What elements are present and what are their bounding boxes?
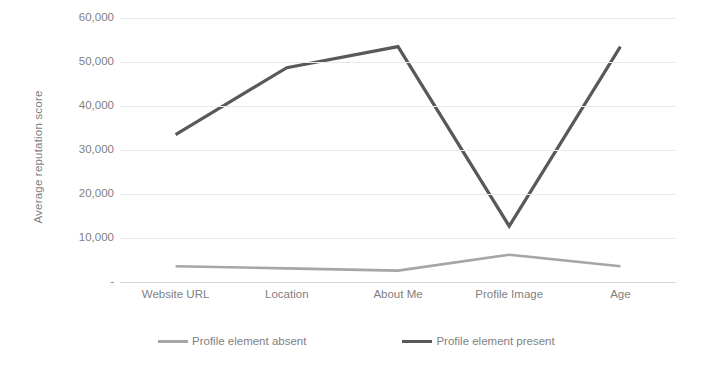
gridline: [120, 238, 676, 239]
y-tick-label: 10,000: [52, 232, 114, 244]
y-tick-label: 40,000: [52, 100, 114, 112]
x-axis-line: [120, 282, 676, 283]
y-axis-title: Average reputation score: [32, 0, 44, 52]
y-axis-tick-labels: -10,00020,00030,00040,00050,00060,000: [52, 0, 114, 368]
gridline: [120, 62, 676, 63]
x-tick-label: Profile Image: [454, 288, 565, 308]
y-tick-label: 30,000: [52, 144, 114, 156]
y-tick-label: 50,000: [52, 56, 114, 68]
x-tick-label: About Me: [342, 288, 453, 308]
legend-swatch-absent: [158, 340, 188, 343]
x-tick-label: Age: [565, 288, 676, 308]
x-tick-label: Location: [231, 288, 342, 308]
y-tick-label: -: [52, 276, 114, 288]
gridline: [120, 106, 676, 107]
line-profile-element-absent: [176, 255, 621, 271]
legend-swatch-present: [402, 340, 432, 343]
x-axis-tick-labels: Website URLLocationAbout MeProfile Image…: [120, 288, 676, 308]
line-profile-element-present: [176, 47, 621, 227]
legend-label-absent: Profile element absent: [192, 335, 306, 347]
gridline: [120, 150, 676, 151]
gridline: [120, 18, 676, 19]
gridline: [120, 194, 676, 195]
legend-item-absent[interactable]: Profile element absent: [158, 335, 306, 347]
y-tick-label: 20,000: [52, 188, 114, 200]
x-tick-label: Website URL: [120, 288, 231, 308]
legend-label-present: Profile element present: [436, 335, 554, 347]
y-tick-label: 60,000: [52, 12, 114, 24]
chart-container: Average reputation score -10,00020,00030…: [0, 0, 702, 368]
chart-legend: Profile element absent Profile element p…: [120, 330, 676, 352]
plot-area: [120, 18, 676, 282]
legend-item-present[interactable]: Profile element present: [402, 335, 554, 347]
